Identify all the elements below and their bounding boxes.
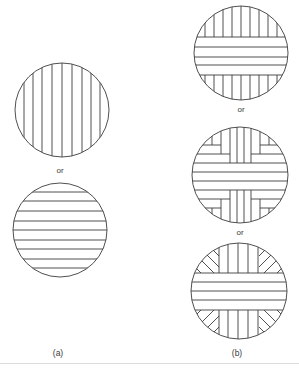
page-edge-divider (0, 363, 299, 364)
or-label-a: or (56, 166, 63, 175)
or-label-b1: or (237, 105, 244, 114)
or-label-b2: or (236, 228, 243, 237)
figure-canvas (0, 0, 299, 370)
caption-a: (a) (53, 348, 63, 358)
circle-vertical-lines (15, 60, 109, 160)
circle-band-vertical-caps (190, 0, 295, 105)
caption-b: (b) (232, 348, 242, 358)
circle-horizontal-lines (10, 183, 110, 277)
circle-band-radial-caps (188, 238, 292, 345)
circle-cross-nested (188, 120, 292, 230)
